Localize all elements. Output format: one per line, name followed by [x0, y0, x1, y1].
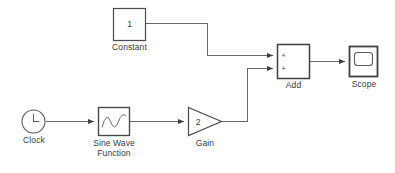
- add-label: Add: [276, 80, 311, 90]
- block-add[interactable]: [278, 45, 310, 79]
- clock-label: Clock: [14, 135, 54, 145]
- constant-label: Constant: [104, 42, 155, 52]
- add-port-sign-1: +: [279, 52, 288, 59]
- block-diagram-canvas: 1 2 + + Constant Clock Sine Wave Functio…: [0, 0, 395, 173]
- signal-gain-to-add[interactable]: [222, 69, 273, 122]
- signal-constant-to-add[interactable]: [145, 24, 273, 56]
- sine-wave-function-label: Sine Wave Function: [85, 138, 143, 158]
- block-sine-wave-function[interactable]: [99, 108, 130, 136]
- gain-value: 2: [190, 117, 206, 127]
- constant-value: 1: [113, 19, 146, 29]
- add-port-sign-2: +: [279, 65, 288, 72]
- scope-label: Scope: [346, 79, 382, 89]
- block-scope[interactable]: [350, 47, 378, 77]
- gain-label: Gain: [186, 138, 224, 148]
- block-clock[interactable]: [22, 110, 45, 133]
